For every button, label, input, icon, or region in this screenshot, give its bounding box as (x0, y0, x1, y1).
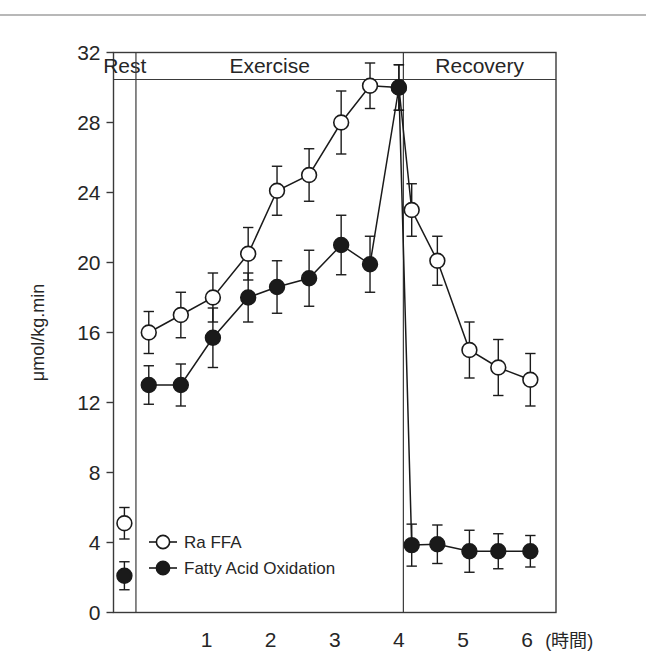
data-point-filled (430, 537, 445, 552)
data-point-filled (206, 330, 221, 345)
series-line (149, 88, 531, 552)
data-point-filled (302, 271, 317, 286)
phase-label-rest: Rest (103, 54, 146, 77)
data-point-open (241, 246, 256, 261)
x-tick-label: 4 (393, 628, 405, 651)
data-point-filled (363, 257, 378, 272)
y-axis-title: μmol/kg.min (28, 284, 48, 381)
data-point-open (117, 516, 132, 531)
y-tick-label: 16 (77, 321, 100, 344)
data-point-open (462, 343, 477, 358)
x-tick-label: 5 (457, 628, 469, 651)
x-tick-label: 1 (201, 628, 213, 651)
axis-labels-group: μmol/kg.min (28, 284, 48, 381)
y-tick-label: 4 (89, 531, 101, 554)
y-tick-label: 20 (77, 251, 100, 274)
data-point-filled (391, 80, 406, 95)
data-point-open (404, 203, 419, 218)
phase-label-recovery: Recovery (435, 54, 524, 77)
figure-container: 048121620242832 123456(時間) RestExerciseR… (0, 0, 646, 663)
x-axis-unit-label: (時間) (545, 631, 593, 651)
y-tick-label: 24 (77, 181, 101, 204)
y-tick-label: 8 (89, 461, 101, 484)
x-tick-label: 6 (521, 628, 533, 651)
data-point-filled (334, 238, 349, 253)
legend-label-fatty-acid-oxidation: Fatty Acid Oxidation (184, 559, 335, 578)
data-point-open (334, 115, 349, 130)
data-point-filled (462, 544, 477, 559)
y-tick-label: 0 (89, 601, 101, 624)
x-tick-label: 3 (329, 628, 341, 651)
chart-canvas: 048121620242832 123456(時間) RestExerciseR… (0, 0, 646, 663)
data-point-open (430, 253, 445, 268)
plot-border (114, 53, 557, 613)
data-point-open (270, 183, 285, 198)
data-point-filled (173, 378, 188, 393)
data-point-open (206, 290, 221, 305)
phase-label-exercise: Exercise (229, 54, 310, 77)
data-point-filled (241, 290, 256, 305)
data-point-open (491, 360, 506, 375)
legend-item-ra-ffa: Ra FFA (149, 533, 242, 552)
x-tick-label: 2 (265, 628, 277, 651)
data-point-open (363, 78, 378, 93)
phase-header-group: RestExerciseRecovery (103, 53, 556, 613)
data-point-open (173, 308, 188, 323)
data-point-open (302, 168, 317, 183)
plot-frame-group (114, 53, 557, 613)
series-fatty-acid-oxidation (117, 65, 538, 590)
legend-item-fatty-acid-oxidation: Fatty Acid Oxidation (149, 559, 335, 578)
data-point-filled (117, 568, 132, 583)
legend-marker-open (156, 535, 169, 548)
data-point-filled (491, 544, 506, 559)
x-axis-ticks-group: 123456(時間) (201, 628, 593, 651)
y-tick-label: 12 (77, 391, 100, 414)
series-ra-ffa (117, 63, 538, 539)
y-tick-label: 28 (77, 111, 100, 134)
legend-marker-filled (156, 561, 169, 574)
data-point-filled (141, 378, 156, 393)
data-point-filled (404, 538, 419, 553)
data-point-open (141, 325, 156, 340)
data-point-open (523, 372, 538, 387)
legend-group: Ra FFAFatty Acid Oxidation (149, 533, 335, 578)
data-point-filled (523, 544, 538, 559)
data-point-filled (270, 280, 285, 295)
y-axis-ticks-group: 048121620242832 (77, 41, 113, 624)
data-series-group (117, 63, 538, 590)
y-tick-label: 32 (77, 41, 100, 64)
legend-label-ra-ffa: Ra FFA (184, 533, 242, 552)
